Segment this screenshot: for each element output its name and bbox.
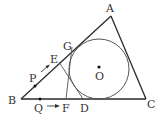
label-c: C bbox=[147, 98, 155, 111]
label-a: A bbox=[105, 2, 115, 15]
label-g: G bbox=[63, 40, 72, 53]
arrow-p-to-e-icon bbox=[41, 65, 50, 73]
diagram-canvas: A B C O G E P Q F D bbox=[0, 0, 166, 120]
label-p: P bbox=[29, 72, 37, 85]
incircle-o bbox=[69, 39, 129, 99]
label-o: O bbox=[95, 70, 104, 83]
point-q-dot bbox=[39, 98, 42, 101]
label-d: D bbox=[80, 102, 89, 115]
label-b: B bbox=[8, 94, 16, 107]
label-q: Q bbox=[34, 102, 43, 115]
label-e: E bbox=[50, 53, 58, 66]
segment-ed bbox=[59, 62, 83, 99]
label-f: F bbox=[62, 102, 70, 115]
geometry-diagram: A B C O G E P Q F D bbox=[0, 0, 166, 120]
point-o-dot bbox=[97, 65, 100, 68]
arrow-q-to-f-icon bbox=[47, 104, 60, 108]
side-ca bbox=[111, 16, 146, 99]
